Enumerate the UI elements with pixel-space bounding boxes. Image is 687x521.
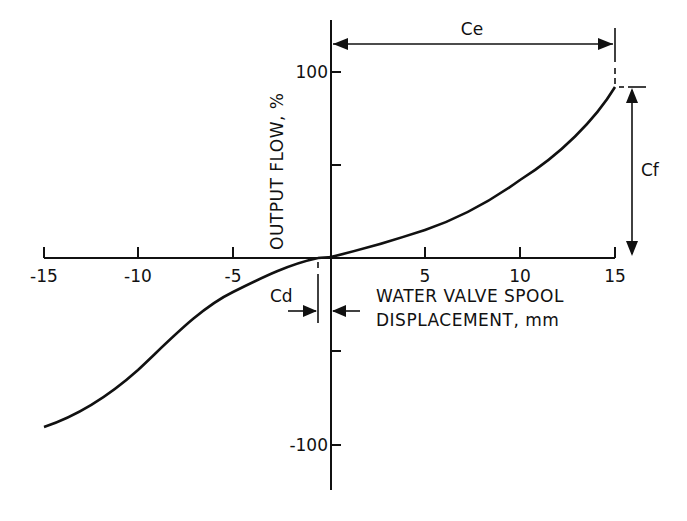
y-tick-label-minus-100: -100 xyxy=(289,435,328,455)
cf-dimension: Cf xyxy=(619,87,660,256)
x-axis-title-line2: DISPLACEMENT, mm xyxy=(376,310,559,330)
y-tick-label-100: 100 xyxy=(296,62,328,82)
output-flow-chart: -15 -10 -5 5 10 15 100 -100 OUTPUT FLOW,… xyxy=(0,0,687,521)
cd-dimension: Cd xyxy=(270,262,360,323)
y-axis-title: OUTPUT FLOW, % xyxy=(267,93,287,251)
x-tick-label: -15 xyxy=(30,266,58,286)
x-tick-label: -5 xyxy=(225,266,242,286)
ce-label: Ce xyxy=(461,19,483,39)
x-tick-label: 5 xyxy=(420,266,431,286)
cd-label: Cd xyxy=(270,286,293,306)
ce-dimension: Ce xyxy=(333,19,615,84)
x-tick-label: 10 xyxy=(509,266,531,286)
x-tick-label: 15 xyxy=(604,266,626,286)
cf-label: Cf xyxy=(641,160,660,180)
x-tick-labels: -15 -10 -5 5 10 15 xyxy=(30,266,626,286)
x-axis-title-line1: WATER VALVE SPOOL xyxy=(376,286,564,306)
x-tick-label: -10 xyxy=(124,266,152,286)
